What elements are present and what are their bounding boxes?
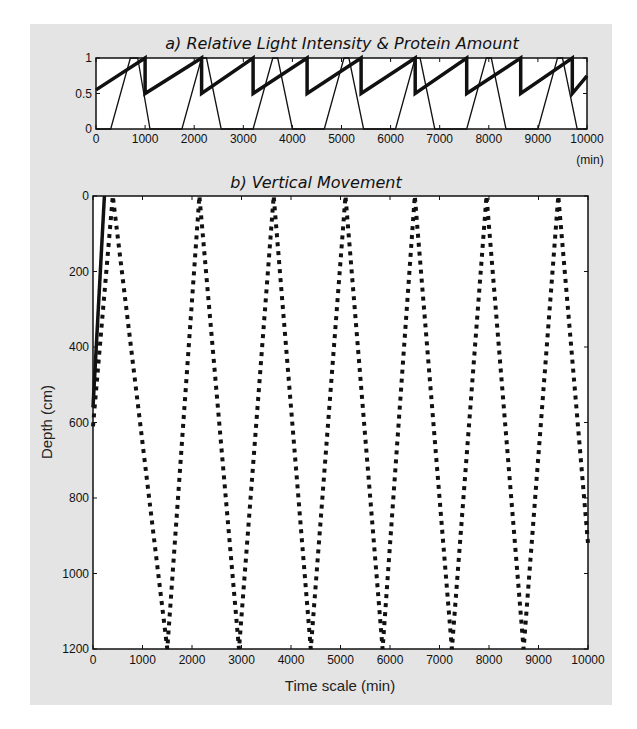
x-tick-label: 7000 <box>426 653 453 667</box>
x-tick-label: 5000 <box>328 132 355 146</box>
x-tick-label: 3000 <box>230 132 257 146</box>
x-tick-label: 10000 <box>570 132 604 146</box>
x-tick-label: 8000 <box>476 653 503 667</box>
x-tick-label: 9000 <box>525 132 552 146</box>
figure: a) Relative Light Intensity & Protein Am… <box>0 0 637 729</box>
chart-a-title: a) Relative Light Intensity & Protein Am… <box>165 34 519 53</box>
y-tick-label: 0 <box>82 189 89 203</box>
chart-b-title: b) Vertical Movement <box>230 173 402 192</box>
x-tick-label: 0 <box>93 132 100 146</box>
y-tick-label: 600 <box>69 416 89 430</box>
y-tick-label: 1 <box>85 51 92 65</box>
x-tick-label: 0 <box>90 653 97 667</box>
chart-a: a) Relative Light Intensity & Protein Am… <box>75 34 604 167</box>
x-tick-label: 4000 <box>279 132 306 146</box>
x-tick-label: 2000 <box>179 653 206 667</box>
x-tick-label: 6000 <box>377 653 404 667</box>
chart-a-x-label: (min) <box>576 153 603 167</box>
y-tick-label: 400 <box>69 340 89 354</box>
y-tick-label: 200 <box>69 265 89 279</box>
chart-b-y-label: Depth (cm) <box>38 385 55 459</box>
x-tick-label: 5000 <box>327 653 354 667</box>
x-tick-label: 3000 <box>228 653 255 667</box>
x-tick-label: 2000 <box>181 132 208 146</box>
y-tick-label: 0 <box>85 122 92 136</box>
x-tick-label: 7000 <box>426 132 453 146</box>
x-tick-label: 9000 <box>525 653 552 667</box>
x-tick-label: 8000 <box>475 132 502 146</box>
x-tick-label: 10000 <box>571 653 605 667</box>
x-tick-label: 6000 <box>377 132 404 146</box>
y-tick-label: 1200 <box>62 642 89 656</box>
x-tick-label: 1000 <box>132 132 159 146</box>
x-tick-label: 1000 <box>129 653 156 667</box>
y-tick-label: 0.5 <box>75 87 92 101</box>
y-tick-label: 1000 <box>62 567 89 581</box>
x-tick-label: 4000 <box>278 653 305 667</box>
chart-b: b) Vertical Movement 0100020003000400050… <box>38 173 605 694</box>
chart-b-x-label: Time scale (min) <box>285 677 395 694</box>
y-tick-label: 800 <box>69 491 89 505</box>
